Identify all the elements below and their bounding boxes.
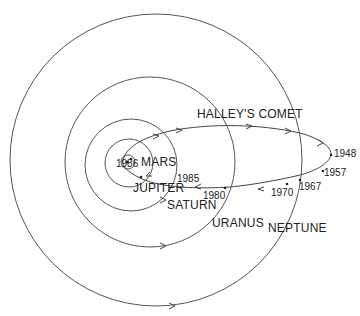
arrow-icon xyxy=(169,303,175,309)
marker-1985 xyxy=(140,176,143,179)
label-year-1967: 1967 xyxy=(299,181,322,192)
marker-1980 xyxy=(224,187,227,190)
arrow-icon xyxy=(258,187,264,191)
label-year-1957: 1957 xyxy=(324,167,347,178)
arrow-icon xyxy=(317,139,323,146)
label-neptune: NEPTUNE xyxy=(268,221,327,235)
label-halleys-comet: HALLEY'S COMET xyxy=(197,107,303,121)
label-year-1985: 1985 xyxy=(177,173,200,184)
label-year-1986: 1986 xyxy=(116,158,139,169)
label-year-1980: 1980 xyxy=(203,190,226,201)
solar-system-diagram: HALLEY'S COMET MARS JUPITER SATURN URANU… xyxy=(0,0,360,316)
label-year-1970: 1970 xyxy=(271,187,294,198)
marker-1948 xyxy=(330,154,333,157)
arrow-icon xyxy=(153,134,159,139)
label-uranus: URANUS xyxy=(212,216,264,230)
label-year-1948: 1948 xyxy=(334,148,357,159)
label-mars: MARS xyxy=(141,155,176,169)
marker-1970 xyxy=(286,183,289,186)
